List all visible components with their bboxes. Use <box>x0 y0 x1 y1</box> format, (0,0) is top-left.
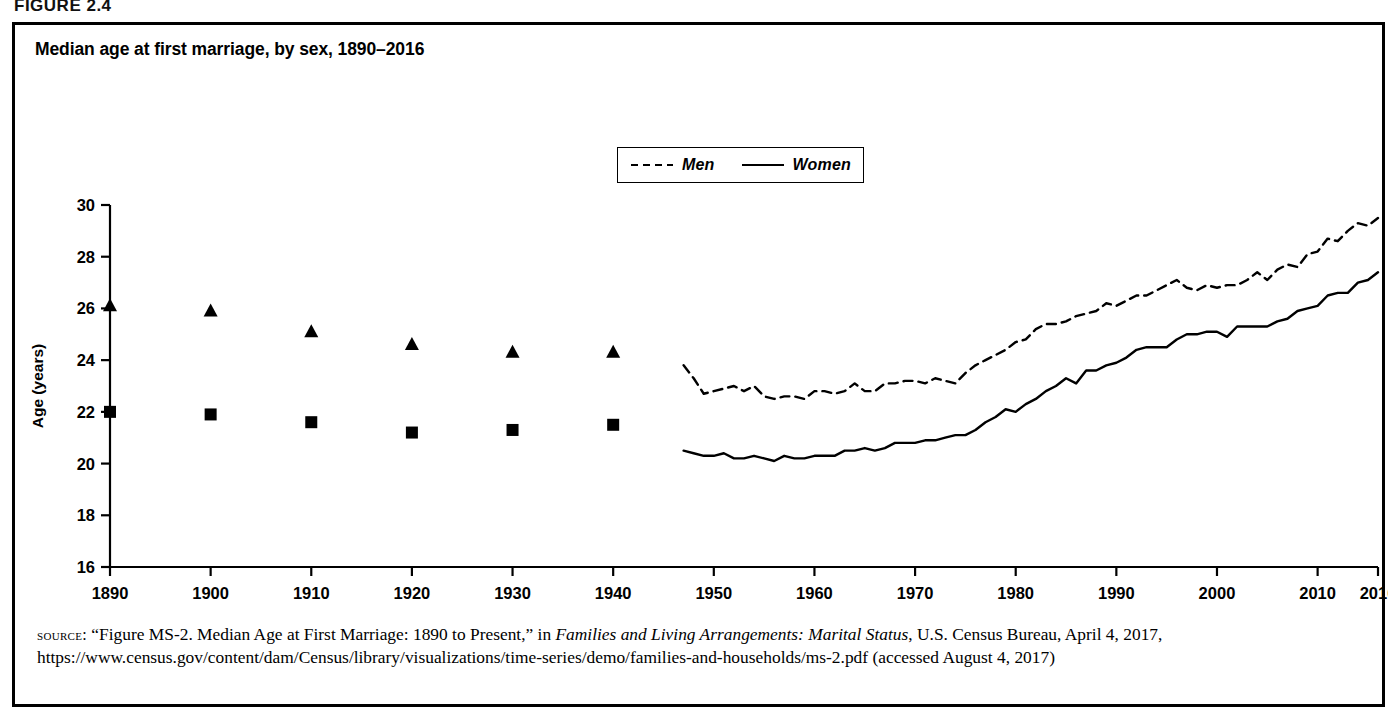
x-axis: 1890190019101920193019401950196019701980… <box>92 567 1388 602</box>
marker-women-1930 <box>507 424 519 436</box>
y-tick-label: 22 <box>77 403 95 421</box>
x-tick-label: 1890 <box>92 584 129 602</box>
x-tick-label: 1970 <box>897 584 934 602</box>
x-tick-label: 1920 <box>394 584 431 602</box>
marker-men-1940 <box>606 345 620 358</box>
marker-women-1890 <box>104 406 116 418</box>
source-note: source: “Figure MS-2. Median Age at Firs… <box>37 623 1377 669</box>
figure-number-label: FIGURE 2.4 <box>14 0 112 18</box>
marker-men-1890 <box>103 298 117 311</box>
marker-women-1900 <box>205 408 217 420</box>
data-markers-group <box>103 298 620 438</box>
x-tick-label: 1950 <box>695 584 732 602</box>
x-tick-label: 1930 <box>494 584 531 602</box>
series-line-women <box>684 272 1378 461</box>
x-tick-label: 1940 <box>595 584 632 602</box>
x-tick-label: 1900 <box>192 584 229 602</box>
source-publication-title: Families and Living Arrangements: Marita… <box>555 624 908 644</box>
y-tick-label: 28 <box>77 248 95 266</box>
marker-men-1930 <box>506 345 520 358</box>
source-prefix: source: <box>37 626 87 643</box>
x-tick-label: 1960 <box>796 584 833 602</box>
y-tick-label: 30 <box>77 196 95 214</box>
y-tick-label: 24 <box>77 351 96 369</box>
x-tick-label: 1990 <box>1098 584 1135 602</box>
x-tick-label: 1980 <box>997 584 1034 602</box>
series-line-men <box>684 218 1378 399</box>
y-tick-label: 26 <box>77 299 95 317</box>
figure-container: Median age at first marriage, by sex, 18… <box>12 22 1385 707</box>
marker-men-1910 <box>304 324 318 337</box>
x-tick-label: 2000 <box>1199 584 1236 602</box>
plot-area: 1618202224262830 18901900191019201930194… <box>15 25 1388 710</box>
marker-men-1900 <box>204 303 218 316</box>
source-text-part1: “Figure MS-2. Median Age at First Marria… <box>87 624 556 644</box>
x-tick-label: 2010 <box>1299 584 1336 602</box>
marker-women-1910 <box>305 416 317 428</box>
marker-women-1940 <box>607 419 619 431</box>
y-tick-label: 16 <box>77 558 95 576</box>
y-tick-label: 20 <box>77 455 95 473</box>
marker-men-1920 <box>405 337 419 350</box>
chart-svg: 1618202224262830 18901900191019201930194… <box>15 25 1388 710</box>
x-tick-label: 2016 <box>1360 584 1388 602</box>
y-axis-title: Age (years) <box>29 344 46 428</box>
y-axis: 1618202224262830 <box>77 196 110 576</box>
x-tick-label: 1910 <box>293 584 330 602</box>
y-tick-label: 18 <box>77 506 95 524</box>
marker-women-1920 <box>406 427 418 439</box>
data-series-group <box>684 218 1378 461</box>
